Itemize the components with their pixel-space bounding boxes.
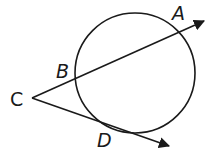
point-label-a: A xyxy=(172,4,185,23)
circle xyxy=(75,13,195,133)
point-label-d: D xyxy=(97,131,112,150)
point-label-c: C xyxy=(10,90,23,109)
point-label-b: B xyxy=(56,62,69,81)
geometry-diagram: A B C D xyxy=(0,0,210,165)
